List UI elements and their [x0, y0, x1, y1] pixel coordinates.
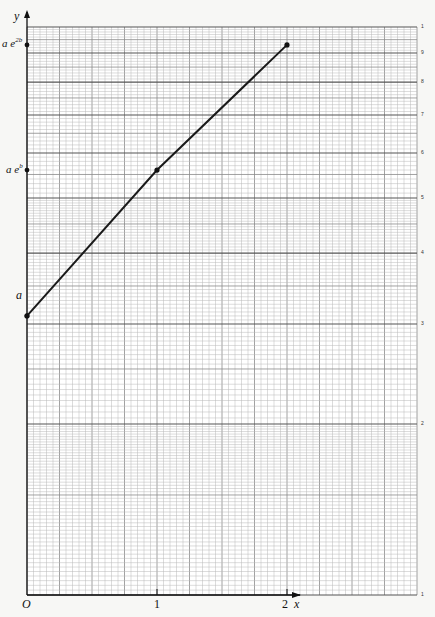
right-scale-label: 6 [421, 149, 424, 155]
right-scale-label: 3 [421, 320, 424, 326]
semilog-plot [0, 0, 435, 617]
right-scale-label: 1 [421, 23, 424, 29]
y-label-a: a [16, 288, 22, 303]
right-scale-label: 9 [421, 49, 424, 55]
right-scale-label: 8 [421, 78, 424, 84]
y-axis-label: y [14, 9, 19, 24]
right-scale-label: 7 [421, 111, 424, 117]
right-scale-label: 1 [421, 591, 424, 597]
right-scale-label: 5 [421, 194, 424, 200]
x-axis-label: x [294, 597, 299, 612]
right-scale-label: 4 [421, 249, 424, 255]
y-label-ae2b: a e2b [2, 36, 22, 49]
x-tick-1: 1 [154, 597, 160, 612]
origin-label: O [22, 597, 31, 612]
right-scale-label: 2 [421, 420, 424, 426]
x-tick-2: 2 [282, 597, 288, 612]
y-label-aeb: a eb [6, 162, 23, 175]
grid-lines [27, 27, 417, 595]
